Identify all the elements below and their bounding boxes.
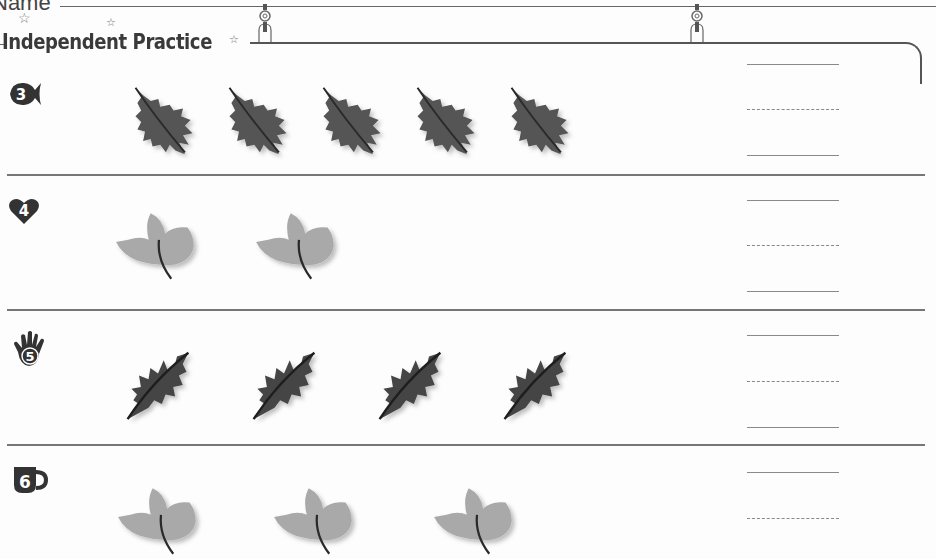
mug-icon: 6 (12, 465, 48, 495)
answer-line-middle[interactable] (747, 518, 839, 519)
star-icon: ☆ (18, 10, 31, 26)
oak-leaf-dark-tilted (497, 345, 573, 425)
fish-icon: 3 (8, 80, 42, 108)
maple-leaf-light (432, 480, 524, 559)
maple-leaf-light (272, 480, 364, 559)
section-divider (7, 444, 925, 446)
answer-line-bottom[interactable] (747, 427, 839, 428)
answer-line-bottom[interactable] (747, 291, 839, 292)
answer-line-top[interactable] (747, 335, 839, 336)
answer-line-top[interactable] (747, 200, 839, 201)
maple-leaf-light (254, 205, 346, 287)
oak-leaf-dark (314, 80, 390, 160)
answer-line-middle[interactable] (747, 381, 839, 382)
answer-line-middle[interactable] (747, 245, 839, 246)
section-divider (7, 174, 925, 176)
section-divider (7, 309, 925, 311)
answer-line-top[interactable] (747, 472, 839, 473)
oak-leaf-dark-tilted (246, 345, 322, 425)
page-frame (250, 42, 922, 84)
oak-leaf-dark (408, 80, 484, 160)
maple-leaf-light (114, 205, 206, 287)
answer-line-bottom[interactable] (747, 155, 839, 156)
oak-leaf-dark (502, 80, 578, 160)
svg-text:3: 3 (16, 86, 26, 104)
oak-leaf-dark-tilted (372, 345, 448, 425)
answer-line-middle[interactable] (747, 109, 839, 110)
heart-icon: 4 (8, 197, 40, 225)
svg-text:6: 6 (19, 472, 31, 492)
name-input-line[interactable] (60, 6, 936, 7)
clip-hanger-icon (688, 4, 706, 44)
clip-hanger-icon (256, 4, 274, 44)
svg-text:5: 5 (25, 349, 34, 364)
maple-leaf-light (116, 480, 208, 559)
star-icon: ☆ (229, 33, 239, 46)
svg-text:4: 4 (19, 202, 29, 220)
hand-icon: 5 (12, 330, 48, 368)
oak-leaf-dark-tilted (120, 345, 196, 425)
star-icon: ☆ (106, 16, 116, 29)
section-title: Independent Practice (2, 30, 212, 54)
oak-leaf-dark (126, 80, 202, 160)
answer-line-top[interactable] (747, 64, 839, 65)
oak-leaf-dark (220, 80, 296, 160)
